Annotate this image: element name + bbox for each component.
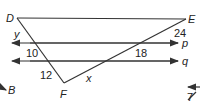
- label-point-b: B: [8, 84, 15, 96]
- label-24: 24: [174, 27, 186, 39]
- label-point-d: D: [6, 12, 14, 24]
- label-line-q: q: [182, 55, 189, 67]
- label-12: 12: [40, 69, 52, 81]
- label-partial-7: 7: [187, 91, 193, 103]
- partial-arrow-b: [0, 87, 6, 90]
- label-y: y: [13, 28, 21, 40]
- label-point-e: E: [188, 13, 196, 25]
- triangle-diagram: D E F p q y 10 12 x 24 18 B 7: [0, 0, 201, 103]
- label-point-f: F: [60, 88, 68, 100]
- label-x: x: [85, 72, 92, 84]
- segment-fe: [64, 19, 186, 83]
- label-18: 18: [135, 47, 147, 59]
- segment-de: [17, 18, 186, 19]
- label-10: 10: [26, 47, 38, 59]
